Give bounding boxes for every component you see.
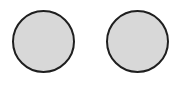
- canvas: [0, 0, 187, 91]
- left-circle: [12, 10, 75, 73]
- right-circle: [106, 10, 169, 73]
